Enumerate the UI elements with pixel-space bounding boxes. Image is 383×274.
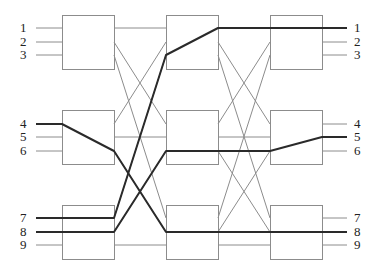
input-port-label-9: 9 (20, 238, 27, 251)
output-port-label-7: 7 (354, 211, 361, 224)
switch-box-stage3-row2 (271, 111, 323, 165)
output-port-label-3: 3 (354, 48, 361, 61)
output-port-label-6: 6 (354, 144, 361, 157)
path-input4-to-output8 (36, 124, 347, 232)
output-port-label-5: 5 (354, 130, 361, 143)
clos-network-diagram (0, 0, 383, 274)
switch-boxes (63, 16, 323, 260)
input-port-label-1: 1 (20, 21, 27, 34)
input-port-label-7: 7 (20, 211, 27, 224)
input-port-label-6: 6 (20, 144, 27, 157)
switch-box-stage2-row2 (167, 111, 219, 165)
input-port-label-5: 5 (20, 130, 27, 143)
path-input7-to-output1 (36, 28, 347, 218)
input-port-label-3: 3 (20, 48, 27, 61)
switch-box-stage2-row1 (167, 16, 219, 70)
port-stubs (36, 28, 347, 245)
switch-box-stage1-row1 (63, 16, 115, 70)
output-port-label-9: 9 (354, 238, 361, 251)
highlighted-connections (36, 28, 347, 232)
interstage-wires (114, 28, 270, 245)
switch-box-stage3-row1 (271, 16, 323, 70)
output-port-label-1: 1 (354, 21, 361, 34)
